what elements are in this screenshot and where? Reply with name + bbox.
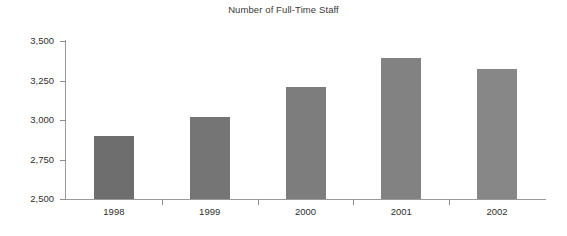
bar xyxy=(477,69,517,199)
x-tick-mark xyxy=(162,199,163,205)
y-tick-label: 3,500 xyxy=(30,35,54,46)
x-tick-mark xyxy=(258,199,259,205)
bar-chart: Number of Full-Time Staff 2,5002,7503,00… xyxy=(0,0,567,236)
x-tick-mark xyxy=(449,199,450,205)
x-axis-line xyxy=(65,199,546,200)
bar xyxy=(190,117,230,199)
bar xyxy=(381,58,421,199)
x-tick-label: 2001 xyxy=(371,206,431,217)
bar xyxy=(94,136,134,199)
y-tick-label: 2,750 xyxy=(30,154,54,165)
plot-area xyxy=(66,41,545,199)
x-tick-label: 1999 xyxy=(180,206,240,217)
y-tick-mark xyxy=(60,199,66,200)
chart-title: Number of Full-Time Staff xyxy=(0,4,567,15)
x-tick-label: 2000 xyxy=(276,206,336,217)
x-tick-label: 2002 xyxy=(467,206,527,217)
x-tick-label: 1998 xyxy=(84,206,144,217)
y-tick-label: 3,000 xyxy=(30,114,54,125)
y-tick-label: 2,500 xyxy=(30,193,54,204)
y-tick-label: 3,250 xyxy=(30,75,54,86)
bar xyxy=(286,87,326,199)
x-tick-mark xyxy=(353,199,354,205)
